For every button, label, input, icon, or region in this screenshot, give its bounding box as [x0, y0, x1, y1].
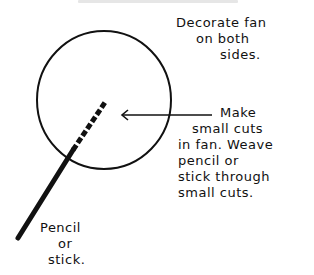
note-cuts: Make small cuts in fan. Weave pencil or … [176, 105, 273, 201]
note-decorate: Decorate fan on both sides. [176, 15, 266, 63]
note-cuts-line: small cuts. [176, 185, 273, 201]
note-decorate-line: on both [176, 31, 266, 47]
note-cuts-line: Make [176, 105, 273, 121]
note-stick-line: Pencil [40, 220, 85, 236]
fan-circle [37, 31, 171, 169]
note-cuts-line: small cuts [176, 121, 273, 137]
note-decorate-line: Decorate fan [176, 15, 266, 31]
fan-diagram: Decorate fan on both sides. Make small c… [0, 0, 314, 275]
note-decorate-line: sides. [176, 47, 266, 63]
note-cuts-line: pencil or [176, 153, 273, 169]
woven-cuts [73, 101, 106, 150]
cropped-header-text [78, 0, 238, 3]
note-cuts-line: stick through [176, 169, 273, 185]
note-cuts-line: in fan. Weave [176, 137, 273, 153]
note-stick-line: or [40, 236, 85, 252]
note-stick: Pencil or stick. [40, 220, 85, 268]
note-stick-line: stick. [40, 252, 85, 268]
